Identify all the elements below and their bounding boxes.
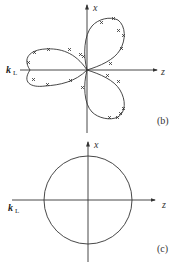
figure: x z k L (b) x z k L (c) — [0, 0, 181, 265]
k-subscript-c: L — [15, 207, 19, 215]
z-axis-label-b: z — [160, 66, 165, 77]
diagram-c: x z k L (c) — [8, 139, 168, 262]
upper-lobe — [85, 18, 125, 70]
k-label-c: k — [8, 202, 13, 213]
k-subscript-b: L — [13, 69, 17, 77]
data-markers — [27, 17, 125, 119]
x-axis-label-b: x — [92, 2, 98, 13]
caption-c: (c) — [157, 243, 168, 255]
lower-lobe — [85, 70, 125, 119]
diagram-b: x z k L (b) — [6, 2, 169, 133]
x-axis-label-c: x — [93, 139, 99, 150]
k-label-b: k — [6, 64, 11, 75]
left-lobe — [27, 49, 87, 87]
z-axis-label-c: z — [161, 199, 166, 210]
caption-b: (b) — [157, 115, 169, 127]
